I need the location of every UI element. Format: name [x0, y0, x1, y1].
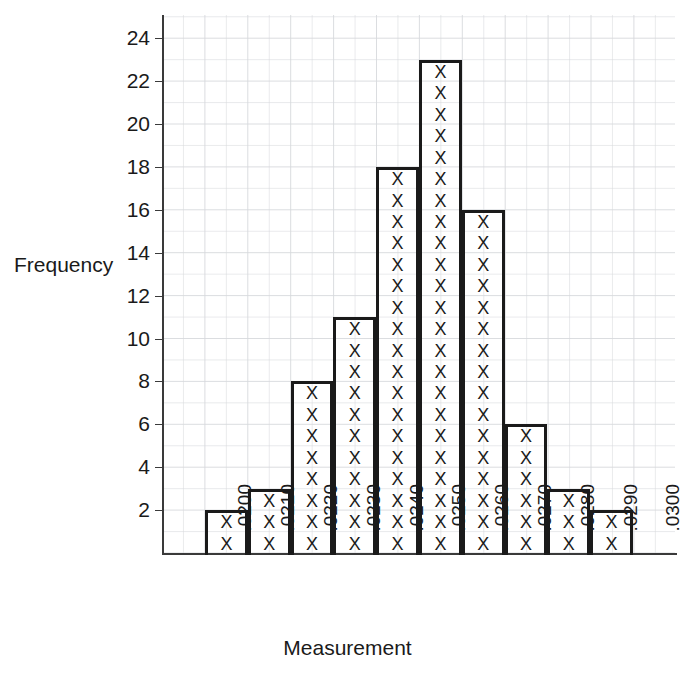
x-axis-title: Measurement	[0, 636, 695, 660]
x-axis-tick-label: .0290	[621, 484, 640, 560]
x-axis-tick-label: .0300	[663, 484, 682, 560]
x-axis-tick-label: .0280	[578, 484, 597, 560]
x-axis-tick-labels: .0200.0210.0220.0230.0240.0250.0260.0270…	[0, 0, 695, 677]
x-axis-tick-label: .0260	[492, 484, 511, 560]
x-axis-tick-label: .0240	[407, 484, 426, 560]
histogram-chart: 24681012141618202224 XXXXXXXXXXXXXXXXXXX…	[0, 0, 695, 677]
x-axis-tick-label: .0230	[364, 484, 383, 560]
y-axis-title: Frequency	[14, 253, 113, 277]
x-axis-tick-label: .0250	[449, 484, 468, 560]
x-axis-tick-label: .0210	[278, 484, 297, 560]
x-axis-tick-label: .0200	[235, 484, 254, 560]
x-axis-tick-label: .0270	[535, 484, 554, 560]
x-axis-tick-label: .0220	[321, 484, 340, 560]
